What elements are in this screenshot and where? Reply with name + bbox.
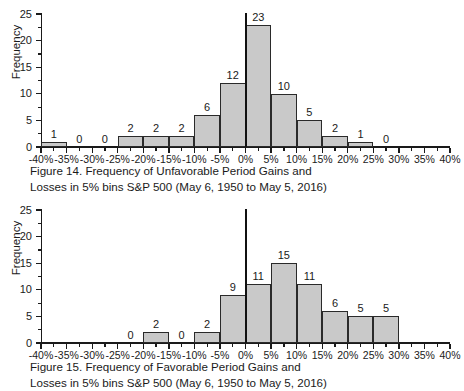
y-axis-tick [36,289,42,290]
y-axis-tick-label: 20 [6,231,32,242]
figure-14-plot: Frequency 0510152025-40%-35%-30%-25%-20%… [0,6,464,162]
x-axis-tick [424,148,425,153]
x-axis-tick [398,344,399,349]
histogram-bar [246,25,272,147]
x-axis-minor-tick [258,344,259,347]
bar-value-label: 5 [294,107,324,118]
y-axis-tick-label: 15 [6,62,32,73]
x-axis-tick [373,148,374,153]
caption-line-2: Losses in 5% bins S&P 500 (May 6, 1950 t… [30,179,450,195]
figure-15-caption: Figure 15. Frequency of Favorable Period… [30,359,450,390]
x-axis-minor-tick [181,148,182,151]
x-axis-tick [322,148,323,153]
histogram-bar [271,263,297,343]
x-axis-tick [219,344,220,349]
x-axis-minor-tick [181,344,182,347]
bar-value-label: 11 [294,271,324,282]
x-axis-tick [219,148,220,153]
y-axis-tick-label: 15 [6,258,32,269]
x-axis-tick [92,148,93,153]
y-axis-tick-label: 20 [6,35,32,46]
bar-value-label: 2 [167,123,197,134]
x-axis-tick [194,148,195,153]
x-axis-tick [245,344,246,349]
bar-value-label: 10 [269,81,299,92]
x-axis-tick [347,344,348,349]
bar-value-label: 2 [192,319,222,330]
x-axis-tick [168,344,169,349]
x-axis-minor-tick [53,344,54,347]
bar-value-label: 2 [141,319,171,330]
histogram-bar [373,316,399,343]
histogram-bar [143,136,169,147]
histogram-bar [220,83,246,147]
y-axis-tick-label: 0 [6,338,32,349]
figure-15-plot: Frequency 0510152025-40%-35%-30%-25%-20%… [0,202,464,358]
x-axis-tick [449,148,450,153]
caption-line-1: Figure 15. Frequency of Favorable Period… [30,359,450,375]
y-axis-minor-tick [38,303,42,304]
x-axis-minor-tick [155,344,156,347]
y-axis-minor-tick [38,27,42,28]
x-axis-tick [347,148,348,153]
x-axis-minor-tick [411,148,412,151]
y-axis-tick-label: 25 [6,205,32,216]
bar-value-label: 0 [115,330,145,341]
histogram-bar [297,120,323,147]
x-axis-minor-tick [232,344,233,347]
bar-value-label: 23 [243,12,273,23]
x-axis-minor-tick [207,148,208,151]
y-axis-tick [36,120,42,121]
x-axis-tick [398,148,399,153]
x-axis-tick [92,344,93,349]
histogram-bar [143,332,169,343]
bar-value-label: 6 [192,102,222,113]
y-axis-tick [36,236,42,237]
figure-15: Frequency 0510152025-40%-35%-30%-25%-20%… [0,196,464,391]
bar-value-label: 0 [90,134,120,145]
y-axis-tick-label: 25 [6,9,32,20]
histogram-bar [246,284,272,343]
histogram-bar [194,115,220,147]
x-axis-tick [373,344,374,349]
y-axis-minor-tick [38,276,42,277]
x-axis-tick [66,344,67,349]
bar-value-label: 0 [167,330,197,341]
y-axis-tick [36,316,42,317]
figure-14-caption: Figure 14. Frequency of Unfavorable Peri… [30,163,450,194]
x-axis-minor-tick [130,344,131,347]
x-axis-tick [245,148,246,153]
x-axis-minor-tick [360,344,361,347]
y-axis-tick [36,209,42,210]
y-axis-tick-label: 5 [6,311,32,322]
y-axis-minor-tick [38,107,42,108]
x-axis-minor-tick [309,344,310,347]
x-axis-minor-tick [130,148,131,151]
y-axis-minor-tick [38,249,42,250]
figure-14: Frequency 0510152025-40%-35%-30%-25%-20%… [0,0,464,195]
y-axis-tick-label: 0 [6,142,32,153]
x-axis-minor-tick [411,344,412,347]
x-axis-tick [449,344,450,349]
x-axis-tick [270,344,271,349]
x-axis-minor-tick [283,148,284,151]
histogram-bar [220,295,246,343]
y-axis-tick [36,93,42,94]
x-axis-minor-tick [79,148,80,151]
zero-reference-line [245,13,247,147]
y-axis-tick-label: 10 [6,88,32,99]
histogram-bar [118,136,144,147]
x-axis-minor-tick [104,148,105,151]
zero-reference-line [245,209,247,343]
y-axis-minor-tick [38,53,42,54]
x-axis-tick [143,148,144,153]
x-axis-tick [168,148,169,153]
bar-value-label: 12 [218,70,248,81]
x-axis-minor-tick [385,344,386,347]
x-axis-minor-tick [334,148,335,151]
x-axis-minor-tick [360,148,361,151]
x-axis-minor-tick [283,344,284,347]
x-axis-tick [40,344,41,349]
x-axis-minor-tick [258,148,259,151]
y-axis-tick [36,40,42,41]
